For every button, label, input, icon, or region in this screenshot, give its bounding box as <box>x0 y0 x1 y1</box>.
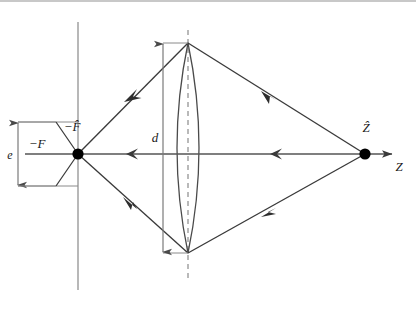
label-entrance-e: e <box>7 148 13 162</box>
label-axis-z: Z <box>395 159 403 174</box>
figure-canvas: −F̂ −F d e Ẑ Z <box>0 0 416 312</box>
label-aperture-d: d <box>152 130 159 145</box>
ray-upper-right <box>188 43 365 154</box>
label-object-plane: −F <box>29 136 47 151</box>
aperture-dimension-d <box>163 43 188 253</box>
ray-lower-left-arrowhead <box>123 197 137 210</box>
right-object-point-marker <box>359 148 370 159</box>
left-focal-point-marker <box>72 148 83 159</box>
label-image-point: Ẑ <box>362 120 370 135</box>
ray-upper-left-arrowhead <box>124 89 142 102</box>
ray-lower-right <box>188 154 365 253</box>
entrance-edge-lower <box>56 154 78 186</box>
optical-ray-diagram: −F̂ −F d e Ẑ Z <box>0 0 416 312</box>
label-left-focal-point: −F̂ <box>64 119 82 134</box>
ray-lower-right-arrowhead <box>261 208 276 217</box>
